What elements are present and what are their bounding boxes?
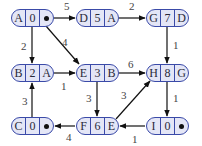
node-name: F xyxy=(77,118,90,134)
edge-weight-i-f: 1 xyxy=(132,134,138,145)
edge-weight-a-e: 4 xyxy=(62,37,68,48)
edge-weight-f-h: 3 xyxy=(121,90,127,101)
node-distance: 0 xyxy=(160,118,174,134)
node-distance: 7 xyxy=(160,10,174,26)
node-d: D 5 A xyxy=(76,9,119,27)
edge-weight-d-g: 2 xyxy=(129,1,135,12)
node-f: F 6 E xyxy=(76,117,119,135)
node-name: A xyxy=(12,10,25,26)
edge-weight-g-h: 1 xyxy=(173,40,179,51)
node-distance: 0 xyxy=(25,118,39,134)
node-predecessor-null xyxy=(39,10,53,26)
edge-weight-b-e: 1 xyxy=(61,81,67,92)
edge-weight-a-d: 5 xyxy=(64,1,70,12)
node-b: B 2 A xyxy=(11,64,54,82)
node-distance: 8 xyxy=(160,65,174,81)
node-predecessor-null xyxy=(39,118,53,134)
node-name: D xyxy=(77,10,90,26)
node-a: A 0 xyxy=(11,9,54,27)
node-name: G xyxy=(147,10,160,26)
node-name: H xyxy=(147,65,160,81)
edge-weight-a-b: 2 xyxy=(21,41,27,52)
node-predecessor: E xyxy=(104,118,118,134)
node-predecessor-null xyxy=(174,118,188,134)
node-e: E 3 B xyxy=(76,64,119,82)
node-predecessor: B xyxy=(104,65,118,81)
node-predecessor: A xyxy=(39,65,53,81)
node-c: C 0 xyxy=(11,117,54,135)
node-predecessor: A xyxy=(104,10,118,26)
node-h: H 8 G xyxy=(146,64,189,82)
node-name: I xyxy=(147,118,160,134)
node-g: G 7 D xyxy=(146,9,189,27)
node-name: E xyxy=(77,65,90,81)
node-distance: 5 xyxy=(90,10,104,26)
node-distance: 3 xyxy=(90,65,104,81)
node-i: I 0 xyxy=(146,117,189,135)
edge-weight-e-f: 3 xyxy=(86,93,92,104)
null-pointer-dot-icon xyxy=(44,124,49,129)
edge-weight-e-h: 6 xyxy=(128,59,134,70)
node-distance: 0 xyxy=(25,10,39,26)
node-predecessor: D xyxy=(174,10,188,26)
null-pointer-dot-icon xyxy=(44,16,49,21)
edge-weight-h-i: 1 xyxy=(173,93,179,104)
edge-weight-c-b: 3 xyxy=(22,96,28,107)
node-distance: 6 xyxy=(90,118,104,134)
node-distance: 2 xyxy=(25,65,39,81)
node-name: C xyxy=(12,118,25,134)
node-name: B xyxy=(12,65,25,81)
node-predecessor: G xyxy=(174,65,188,81)
edge-weight-f-c: 4 xyxy=(66,132,72,143)
null-pointer-dot-icon xyxy=(179,124,184,129)
